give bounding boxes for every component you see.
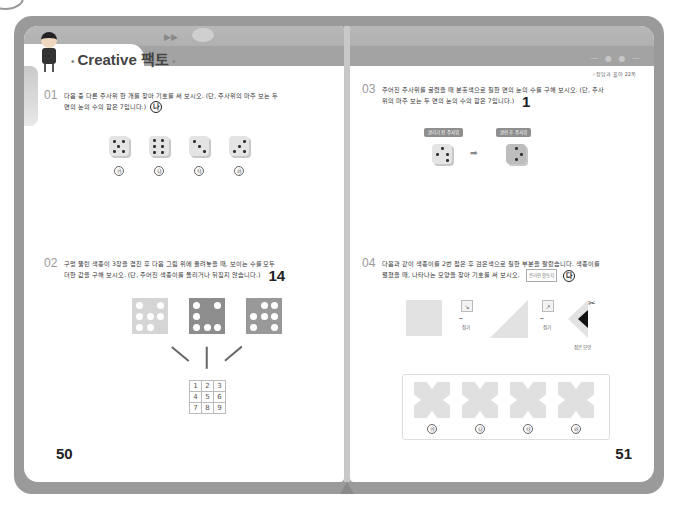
workbook-spread: ▶▶ •Creative 팩토• 01 다음 중 다른 주사위 한 개를 찾아 … <box>0 0 678 506</box>
handwritten-answer: 1 <box>522 93 530 110</box>
book-frame: ▶▶ •Creative 팩토• 01 다음 중 다른 주사위 한 개를 찾아 … <box>14 16 664 494</box>
paper-square <box>406 300 442 336</box>
die-before-roll <box>432 144 452 164</box>
punched-paper-2 <box>189 298 225 334</box>
right-header-band: — ● ● — <box>350 26 654 66</box>
corner-decoration <box>0 0 24 10</box>
tag-after-roll: 굴린 후 주사위 <box>496 128 531 137</box>
tag-before-roll: 굴리기 전 주사위 <box>424 128 463 137</box>
left-page: ▶▶ •Creative 팩토• 01 다음 중 다른 주사위 한 개를 찾아 … <box>24 26 344 482</box>
choice-label: ㉮ <box>114 166 124 176</box>
arrow-decoration-icon: ▶▶ <box>164 32 178 42</box>
answer-reference: › 정답과 풀이 22쪽 <box>593 70 636 77</box>
question-text: 구멍 뚫린 색종이 3장을 겹친 후 다음 그림 위에 올려놓을 때, 보이는 … <box>64 258 344 281</box>
punched-paper-3 <box>246 298 282 334</box>
choice-label: ㉯ <box>475 424 485 434</box>
question-03: 03 주어진 주사위를 굴렸을 때 분홍색으로 칠한 면의 눈의 수를 구해 보… <box>362 84 652 114</box>
spine-notch <box>340 482 354 494</box>
die-choice-2 <box>149 136 169 156</box>
arrow-icon <box>206 347 208 369</box>
handwritten-answer: 나 <box>150 101 162 113</box>
arrow-icon <box>172 346 190 361</box>
page-number: 51 <box>615 445 632 462</box>
title-latin: Creative <box>78 51 137 68</box>
question-text: 주어진 주사위를 굴렸을 때 분홍색으로 칠한 면의 눈의 수를 구해 보시오.… <box>382 84 652 107</box>
fold-icon: ↗ <box>542 300 554 312</box>
number-grid: 123 456 789 <box>189 380 226 414</box>
arrow-right-icon: ➡ <box>459 316 463 321</box>
question-number: 03 <box>362 82 375 96</box>
arrow-right-icon: ➡ <box>540 316 544 321</box>
dots-decoration-icon: — ● ● — <box>590 54 642 63</box>
handwritten-answer: 14 <box>268 267 285 284</box>
page-number: 50 <box>56 445 73 462</box>
choice-label: ㉱ <box>571 424 581 434</box>
arrow-right-icon: ➡ <box>470 148 478 158</box>
online-worksheet-badge[interactable]: 온라인 활동지 <box>526 269 557 282</box>
fold-label: 접기 <box>543 324 551 330</box>
handwritten-answer: 다 <box>563 270 575 282</box>
question-04: 04 다음과 같이 색종이를 2번 접은 후 검은색으로 칠한 부분을 잘랐습니… <box>362 258 652 288</box>
paper-triangle <box>490 300 528 338</box>
title-korean: 팩토 <box>141 51 169 68</box>
die-choice-1 <box>109 136 129 156</box>
choice-label: ㉰ <box>523 424 533 434</box>
arrow-icon <box>225 346 243 361</box>
kid-mascot-icon <box>36 32 62 72</box>
question-text: 다음과 같이 색종이를 2번 접은 후 검은색으로 칠한 부분을 잘랐습니다. … <box>382 258 654 282</box>
question-number: 01 <box>44 88 57 102</box>
question-number: 02 <box>44 256 57 270</box>
choice-label: ㉰ <box>194 166 204 176</box>
die-choice-4 <box>229 136 249 156</box>
left-side-decoration <box>24 66 38 126</box>
die-choice-3 <box>189 136 209 156</box>
fold-label: 접기 <box>462 324 470 330</box>
question-02: 02 구멍 뚫린 색종이 3장을 겹친 후 다음 그림 위에 올려놓을 때, 보… <box>44 258 339 288</box>
fold-icon: ↘ <box>461 300 473 312</box>
section-title: •Creative 팩토• <box>68 48 178 69</box>
die-after-roll <box>506 144 526 164</box>
choice-label: ㉱ <box>234 166 244 176</box>
question-01: 01 다음 중 다른 주사위 한 개를 찾아 기호를 써 보시오. (단, 주사… <box>44 90 339 170</box>
scissors-icon: ✂ <box>588 298 596 308</box>
folded-shape-label: 접은 모양 <box>574 344 591 350</box>
flower-decoration-icon <box>192 28 214 42</box>
question-number: 04 <box>362 256 375 270</box>
choice-label: ㉮ <box>427 424 437 434</box>
cut-region <box>578 310 588 328</box>
question-text: 다음 중 다른 주사위 한 개를 찾아 기호를 써 보시오. (단, 주사위의 … <box>64 90 334 113</box>
choice-label: ㉯ <box>154 166 164 176</box>
right-page: — ● ● — › 정답과 풀이 22쪽 03 주어진 주사위를 굴렸을 때 분… <box>350 26 654 482</box>
punched-paper-1 <box>132 298 168 334</box>
